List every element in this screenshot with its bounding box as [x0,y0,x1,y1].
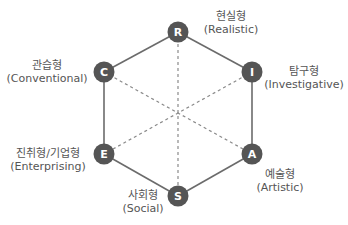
label-investigative-en: (Investigative) [260,78,348,91]
node-r: R [168,22,189,43]
label-social-ko: 사회형 [118,189,168,202]
svg-text:R: R [174,26,183,39]
label-conventional-en: (Conventional) [2,72,92,85]
svg-text:A: A [248,148,257,161]
label-enterprising-en: (Enterprising) [4,160,92,173]
label-artistic-ko: 예술형 [250,168,310,181]
label-conventional-ko: 관습형 [2,59,92,72]
label-conventional: 관습형 (Conventional) [2,59,92,85]
label-artistic: 예술형 (Artistic) [250,168,310,194]
label-enterprising-ko: 진취형/기업형 [4,147,92,160]
node-e: E [94,144,115,165]
hexagon-diagonals [104,32,252,196]
label-realistic: 현실형 (Realistic) [194,10,268,36]
node-c: C [94,62,115,83]
svg-text:C: C [100,66,108,79]
svg-text:E: E [100,148,108,161]
label-realistic-en: (Realistic) [194,23,268,36]
node-a: A [242,144,263,165]
label-social-en: (Social) [118,202,168,215]
label-artistic-en: (Artistic) [250,181,310,194]
label-enterprising: 진취형/기업형 (Enterprising) [4,147,92,173]
label-investigative-ko: 탐구형 [260,65,348,78]
svg-text:I: I [250,66,254,79]
label-realistic-ko: 현실형 [194,10,268,23]
label-social: 사회형 (Social) [118,189,168,215]
label-investigative: 탐구형 (Investigative) [260,65,348,91]
svg-text:S: S [174,190,182,203]
node-s: S [168,186,189,207]
